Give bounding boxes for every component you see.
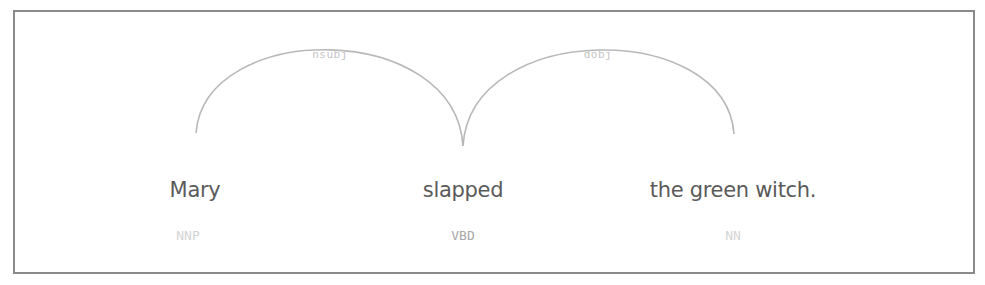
token-the-green-witch: the green witch.	[650, 178, 816, 202]
token-text: slapped	[423, 178, 503, 202]
arc-nsubj	[196, 50, 463, 146]
arc-label-dobj: dobj	[584, 48, 613, 61]
dependency-arcs	[0, 0, 985, 285]
arc-label-nsubj: nsubj	[312, 48, 348, 61]
pos-tag-nn: NN	[725, 228, 741, 243]
token-mary: Mary	[170, 178, 221, 202]
token-slapped: slapped	[423, 178, 503, 202]
pos-tag-vbd: VBD	[451, 228, 474, 243]
token-text: the green witch.	[650, 178, 816, 202]
arc-dobj	[463, 50, 734, 146]
token-text: Mary	[170, 178, 221, 202]
pos-tag-nnp: NNP	[176, 228, 199, 243]
